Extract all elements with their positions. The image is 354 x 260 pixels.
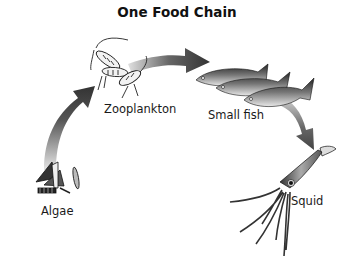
diagram-graphics bbox=[0, 0, 354, 260]
food-chain-diagram: One Food Chain bbox=[0, 0, 354, 260]
label-algae: Algae bbox=[41, 204, 73, 218]
arrow-zooplankton-to-fish bbox=[128, 48, 210, 74]
label-zooplankton: Zooplankton bbox=[104, 102, 176, 116]
algae-illustration bbox=[36, 162, 80, 193]
small-fish-illustration bbox=[196, 64, 314, 107]
label-squid: Squid bbox=[291, 194, 323, 208]
arrow-algae-to-zooplankton bbox=[44, 86, 95, 170]
label-small-fish: Small fish bbox=[208, 108, 264, 122]
